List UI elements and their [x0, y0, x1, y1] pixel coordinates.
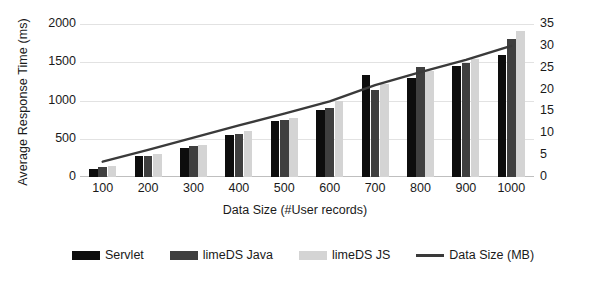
bar	[362, 75, 371, 178]
y-axis-left-tick: 0	[24, 169, 76, 183]
bar-group	[216, 24, 261, 177]
bar	[380, 84, 389, 177]
y-axis-right-tick: 10	[540, 125, 568, 139]
legend-label: limeDS JS	[332, 248, 390, 262]
y-axis-right-tick: 35	[540, 16, 568, 30]
bar	[108, 166, 117, 177]
bar	[280, 120, 289, 177]
y-axis-right-tick: 30	[540, 38, 568, 52]
legend-item[interactable]: Servlet	[72, 248, 144, 262]
y-axis-left-tick: 1500	[24, 54, 76, 68]
bar	[498, 55, 507, 177]
bar-group	[443, 24, 488, 177]
bar	[289, 118, 298, 177]
bar	[235, 134, 244, 177]
y-axis-right-tick: 5	[540, 147, 568, 161]
x-axis-tick: 700	[365, 181, 386, 195]
x-axis-tick: 900	[455, 181, 476, 195]
bar	[316, 110, 325, 177]
bar-group	[171, 24, 216, 177]
x-axis-tick: 200	[138, 181, 159, 195]
bar	[271, 121, 280, 177]
bar	[153, 154, 162, 177]
y-axis-left-tick: 1000	[24, 93, 76, 107]
legend-line-icon	[416, 254, 444, 257]
x-axis-title: Data Size (#User records)	[60, 203, 530, 217]
bar-group	[398, 24, 443, 177]
bar	[425, 71, 434, 177]
bar-group	[352, 24, 397, 177]
bar	[225, 135, 234, 177]
x-axis-tick: 800	[410, 181, 431, 195]
bar	[371, 90, 380, 177]
bar-group	[262, 24, 307, 177]
bar	[180, 148, 189, 177]
bar	[189, 146, 198, 177]
bar	[325, 108, 334, 177]
bar	[98, 167, 107, 177]
x-axis-tick: 400	[228, 181, 249, 195]
bar	[471, 59, 480, 177]
legend-swatch-icon	[72, 251, 100, 260]
bar	[416, 67, 425, 177]
legend-item[interactable]: Data Size (MB)	[416, 248, 534, 262]
y-axis-right-tick: 0	[540, 169, 568, 183]
legend-label: Data Size (MB)	[449, 248, 534, 262]
chart-legend: ServletlimeDS JavalimeDS JSData Size (MB…	[0, 248, 606, 262]
bar	[462, 63, 471, 177]
bar	[507, 39, 516, 177]
bar	[452, 66, 461, 177]
y-axis-right-tick: 15	[540, 103, 568, 117]
bar	[335, 101, 344, 177]
x-axis-tick: 600	[319, 181, 340, 195]
y-axis-right-tick: 25	[540, 60, 568, 74]
legend-label: limeDS Java	[203, 248, 273, 262]
bar	[198, 145, 207, 177]
x-axis-tick: 1000	[497, 181, 525, 195]
y-axis-left-tick: 2000	[24, 16, 76, 30]
y-axis-left-tick: 500	[24, 131, 76, 145]
bar	[407, 78, 416, 177]
legend-label: Servlet	[105, 248, 144, 262]
legend-item[interactable]: limeDS JS	[299, 248, 390, 262]
bar-group	[125, 24, 170, 177]
bar	[89, 169, 98, 177]
bar	[244, 131, 253, 177]
bar	[144, 156, 153, 177]
bar-group	[80, 24, 125, 177]
legend-item[interactable]: limeDS Java	[170, 248, 273, 262]
bar	[516, 31, 525, 177]
y-axis-right-tick: 20	[540, 82, 568, 96]
x-axis-tick: 500	[274, 181, 295, 195]
bar	[135, 156, 144, 177]
bar-group	[307, 24, 352, 177]
x-axis-tick: 100	[92, 181, 113, 195]
chart-container: Average Response Time (ms) I/O Size (MB)…	[0, 0, 606, 288]
x-axis-tick: 300	[183, 181, 204, 195]
bar-group	[489, 24, 534, 177]
plot-area	[80, 24, 534, 177]
legend-swatch-icon	[299, 251, 327, 260]
legend-swatch-icon	[170, 251, 198, 260]
